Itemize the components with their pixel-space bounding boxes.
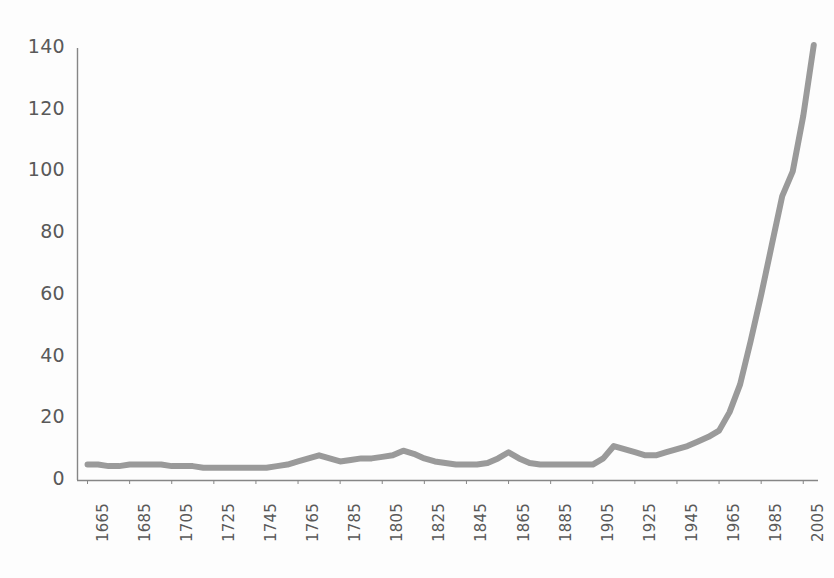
y-axis-tick-label: 140 [28, 35, 65, 57]
x-axis-tick-label: 1905 [599, 503, 617, 542]
line-chart-plot-area [0, 0, 834, 578]
x-axis-tick-label: 1805 [388, 503, 406, 542]
x-axis-tick-label: 1845 [472, 503, 490, 542]
y-axis-tick-label: 120 [28, 97, 65, 119]
y-axis-tick-label: 100 [28, 158, 65, 180]
x-axis-tick-label: 2005 [809, 503, 827, 542]
y-axis-tick-label: 20 [40, 405, 65, 427]
data-series-group [88, 45, 814, 468]
x-axis-tick-label: 1725 [220, 503, 238, 542]
y-axis-tick-label: 40 [40, 344, 65, 366]
x-axis-tick-label: 1665 [94, 503, 112, 542]
x-axis-tick-label: 1685 [136, 503, 154, 542]
x-axis-tick-label: 1985 [767, 503, 785, 542]
x-axis-tick-label: 1785 [346, 503, 364, 542]
chart-container: 020406080100120140 166516851705172517451… [0, 0, 834, 578]
x-axis-tick-label: 1925 [641, 503, 659, 542]
y-axis-tick-label: 80 [40, 220, 65, 242]
x-axis-tick-label: 1705 [178, 503, 196, 542]
x-axis-tick-label: 1865 [515, 503, 533, 542]
x-axis-tick-label: 1965 [725, 503, 743, 542]
x-axis-tick-label: 1745 [262, 503, 280, 542]
y-axis-tick-label: 0 [53, 467, 65, 489]
axis-lines [77, 48, 818, 481]
x-axis-tick-label: 1885 [557, 503, 575, 542]
x-axis-tick-label: 1825 [430, 503, 448, 542]
x-axis-tick-label: 1945 [683, 503, 701, 542]
series-line [88, 45, 814, 468]
y-axis-tick-label: 60 [40, 282, 65, 304]
x-axis-tick-label: 1765 [304, 503, 322, 542]
